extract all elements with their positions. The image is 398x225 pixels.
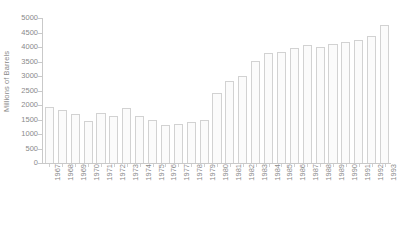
x-axis-tick-mark [62, 164, 63, 167]
plot-area [43, 18, 391, 163]
bar-slot [174, 18, 183, 163]
x-axis-tick-mark [75, 164, 76, 167]
y-axis-tick-mark [38, 120, 42, 121]
x-axis-tick-label: 1983 [260, 164, 269, 204]
y-axis-tick-mark [38, 163, 42, 164]
bar-slot [58, 18, 67, 163]
bar-slot [277, 18, 286, 163]
bar[interactable] [290, 48, 299, 163]
y-axis-tick-mark [38, 149, 42, 150]
y-axis-tick-mark [38, 76, 42, 77]
bar[interactable] [264, 53, 273, 163]
y-axis-tick-mark [38, 47, 42, 48]
y-axis-tick-mark [38, 62, 42, 63]
bar-slot [212, 18, 221, 163]
x-axis-tick-label: 1992 [376, 164, 385, 204]
x-axis-tick-mark [204, 164, 205, 167]
x-axis-tick-mark [217, 164, 218, 167]
bar[interactable] [303, 45, 312, 163]
bar[interactable] [187, 122, 196, 163]
bar-slot [225, 18, 234, 163]
x-axis-tick-label: 1988 [324, 164, 333, 204]
bar[interactable] [316, 47, 325, 163]
x-axis-tick-mark [243, 164, 244, 167]
bar[interactable] [122, 108, 131, 163]
bar-slot [96, 18, 105, 163]
x-axis-tick-mark [307, 164, 308, 167]
x-axis-tick-label: 1986 [298, 164, 307, 204]
bar-slot [341, 18, 350, 163]
bar-slot [264, 18, 273, 163]
y-axis-tick-label: 0 [12, 159, 38, 167]
y-axis-tick-mark [38, 18, 42, 19]
x-axis-tick-mark [114, 164, 115, 167]
y-axis-tick-label: 500 [12, 145, 38, 153]
x-axis-tick-mark [49, 164, 50, 167]
x-axis-tick-mark [178, 164, 179, 167]
x-axis-tick-mark [333, 164, 334, 167]
y-axis-tick-mark [38, 33, 42, 34]
x-axis-tick-label: 1977 [182, 164, 191, 204]
bar[interactable] [96, 113, 105, 163]
x-axis-tick-label: 1982 [247, 164, 256, 204]
y-axis-tick-mark [38, 91, 42, 92]
x-axis-tick-label: 1987 [311, 164, 320, 204]
bar[interactable] [109, 116, 118, 163]
x-axis-tick-label: 1975 [157, 164, 166, 204]
bar-slot [122, 18, 131, 163]
y-axis-tick-label: 4000 [12, 43, 38, 51]
bar-slot [251, 18, 260, 163]
x-axis-tick-label: 1979 [208, 164, 217, 204]
y-axis-title-label: Millions of Barrels [3, 51, 12, 112]
x-axis-tick-mark [256, 164, 257, 167]
bar[interactable] [354, 40, 363, 163]
bar[interactable] [212, 93, 221, 163]
x-axis-tick-labels: 1967196819691970197119721973197419751976… [43, 164, 391, 224]
bar-slot [71, 18, 80, 163]
bar[interactable] [341, 42, 350, 163]
bar[interactable] [84, 121, 93, 163]
x-axis-tick-mark [101, 164, 102, 167]
bar[interactable] [225, 81, 234, 163]
x-axis-tick-label: 1967 [53, 164, 62, 204]
bar[interactable] [277, 52, 286, 163]
x-axis-tick-mark [385, 164, 386, 167]
x-axis-tick-mark [346, 164, 347, 167]
y-axis-tick-label: 2500 [12, 87, 38, 95]
x-axis-tick-mark [153, 164, 154, 167]
x-axis-tick-mark [127, 164, 128, 167]
y-axis-tick-label: 3500 [12, 58, 38, 66]
bar[interactable] [148, 120, 157, 164]
x-axis-tick-label: 1971 [105, 164, 114, 204]
bar[interactable] [45, 107, 54, 163]
x-axis-tick-mark [294, 164, 295, 167]
x-axis-tick-mark [140, 164, 141, 167]
bar[interactable] [328, 44, 337, 163]
x-axis-tick-mark [230, 164, 231, 167]
bar-slot [290, 18, 299, 163]
x-axis-tick-mark [88, 164, 89, 167]
y-axis-tick-label: 2000 [12, 101, 38, 109]
x-axis-tick-label: 1991 [363, 164, 372, 204]
bar[interactable] [251, 61, 260, 163]
bar[interactable] [367, 36, 376, 163]
bar-slot [354, 18, 363, 163]
x-axis-tick-label: 1969 [79, 164, 88, 204]
bar[interactable] [71, 114, 80, 163]
x-axis-tick-mark [372, 164, 373, 167]
bar[interactable] [380, 25, 389, 163]
bar-slot [328, 18, 337, 163]
y-axis-title: Millions of Barrels [0, 0, 14, 163]
bar[interactable] [200, 120, 209, 163]
y-axis-tick-label: 4500 [12, 29, 38, 37]
bar[interactable] [161, 125, 170, 163]
bar[interactable] [135, 116, 144, 163]
bar[interactable] [174, 124, 183, 163]
x-axis-tick-label: 1989 [337, 164, 346, 204]
x-axis-tick-label: 1970 [92, 164, 101, 204]
bar[interactable] [238, 76, 247, 163]
x-axis-tick-label: 1990 [350, 164, 359, 204]
y-axis-tick-mark [38, 134, 42, 135]
bar[interactable] [58, 110, 67, 163]
